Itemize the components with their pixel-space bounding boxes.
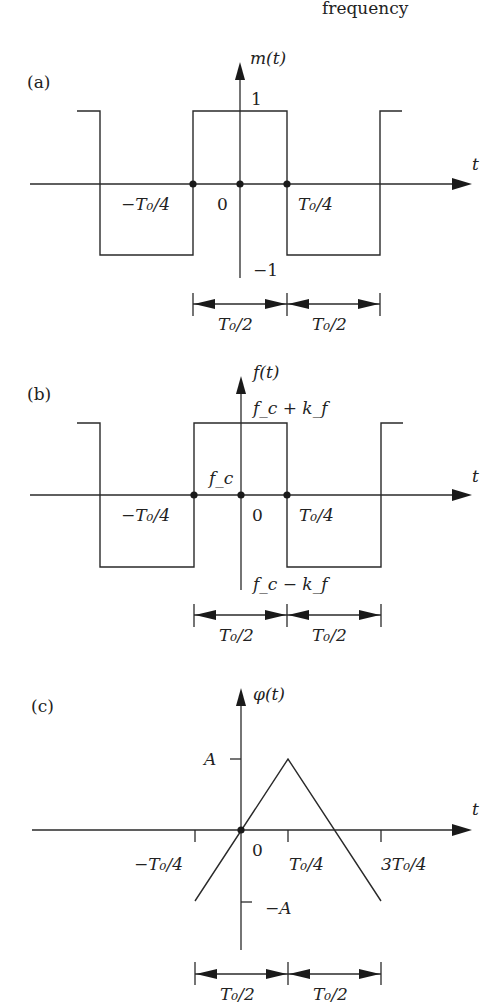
panel-c-tick-right: T₀/4 [289,854,324,874]
panel-a-dot-right [283,180,290,187]
panel-a-span-arrow-icon [358,299,379,309]
panel-b-span-right: T₀/2 [312,625,347,645]
panel-b-span-left: T₀/2 [219,625,254,645]
panel-c-span-arrow-icon [266,969,287,979]
panel-b-dot-left [190,491,197,498]
panel-b-tick-left: −T₀/4 [121,505,170,525]
panel-b: (b) f(t) t f_c + k_f f_c f_c − k_f 0 −T₀… [27,362,479,645]
panel-b-span-arrow-icon [265,610,286,620]
panel-b-span-arrow-icon [288,610,309,620]
panel-a-high-label: 1 [251,89,262,109]
panel-c-span-arrow-icon [196,969,217,979]
panel-c-high-label: A [202,749,216,769]
panel-b-low-label: f_c − k_f [251,574,330,594]
panel-b-y-arrow-icon [236,376,246,394]
panel-a-span-arrow-icon [194,299,215,309]
panel-c-span-arrow-icon [359,969,380,979]
panel-a-dot-origin [236,180,243,187]
panel-a-span-right: T₀/2 [312,314,347,334]
panel-b-label: (b) [27,384,51,404]
panel-b-tick-right: T₀/4 [299,505,334,525]
panel-a-origin-label: 0 [217,194,228,214]
panel-b-xlabel: t [472,466,479,486]
panel-c-tick-left: −T₀/4 [134,854,183,874]
panel-a-tick-left: −T₀/4 [121,194,170,214]
panel-a-span-arrow-icon [265,299,286,309]
panel-a-ylabel: m(t) [250,48,286,68]
panel-b-dot-origin [237,491,244,498]
panel-b-high-label: f_c + k_f [251,398,330,418]
panel-a-y-arrow-icon [235,62,245,80]
panel-c-ylabel: φ(t) [253,684,285,704]
panel-c-span-right: T₀/2 [313,984,348,1004]
panel-c-tick-far: 3T₀/4 [381,854,427,874]
panel-b-mid-label: f_c [207,468,234,488]
panel-a-dot-left [189,180,196,187]
panel-a-x-arrow-icon [452,178,472,190]
panel-c-xlabel: t [472,799,479,819]
panel-c-origin-label: 0 [252,840,263,860]
panel-c: (c) φ(t) t A −A 0 −T₀/4 T₀/4 3T₀/4 T₀/2 … [31,684,479,1004]
panel-a-label: (a) [27,72,50,92]
panel-b-dot-right [283,491,290,498]
panel-a-tick-right: T₀/4 [298,194,333,214]
panel-c-label: (c) [31,696,54,716]
panel-a-low-label: −1 [253,260,278,280]
panel-a-xlabel: t [472,154,479,174]
panel-a-span-arrow-icon [288,299,309,309]
panel-b-span-arrow-icon [359,610,380,620]
cropped-header-text: frequency [322,0,409,18]
panel-c-span-arrow-icon [289,969,310,979]
panel-c-span-left: T₀/2 [220,984,255,1004]
panel-a-span-left: T₀/2 [218,314,253,334]
figure-canvas: frequency (a) m(t) t 1 −1 0 −T₀/4 T₀/4 T… [0,0,500,1004]
panel-b-origin-label: 0 [252,505,263,525]
panel-b-span-arrow-icon [195,610,216,620]
panel-b-x-arrow-icon [452,489,472,501]
panel-c-y-arrow-icon [236,688,246,706]
panel-c-x-arrow-icon [452,824,472,836]
panel-a: (a) m(t) t 1 −1 0 −T₀/4 T₀/4 T₀/2 T₀/2 [27,48,479,334]
panel-b-ylabel: f(t) [251,362,279,382]
panel-c-dot-origin [237,826,244,833]
panel-c-low-label: −A [265,898,292,918]
